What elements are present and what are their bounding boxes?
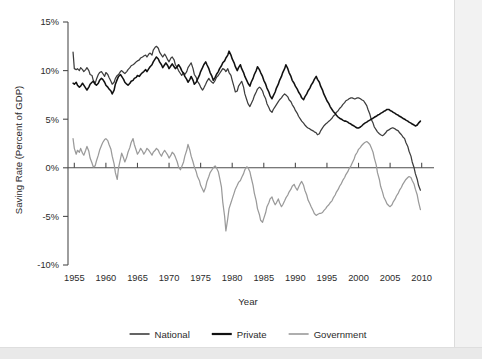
x-tick-label: 2000	[348, 273, 369, 283]
x-tick-label: 1975	[190, 273, 211, 283]
x-tick-label: 1985	[253, 273, 274, 283]
series-line-government	[73, 139, 420, 231]
x-tick-label: 1990	[285, 273, 306, 283]
plot-series	[73, 46, 420, 231]
x-tick-label: 2010	[411, 273, 432, 283]
y-tick-label: 5%	[46, 115, 59, 125]
x-tick-label: 1970	[159, 273, 180, 283]
x-tick-label: 1960	[96, 273, 117, 283]
legend-item-government[interactable]: Government	[289, 329, 367, 340]
legend-label: National	[155, 329, 190, 340]
page-edge-right	[454, 0, 482, 348]
x-tick-label: 1980	[222, 273, 243, 283]
figure-sheet: -10%-5%0%5%10%15%19551960196519701975198…	[0, 0, 455, 348]
scanned-page: -10%-5%0%5%10%15%19551960196519701975198…	[0, 0, 482, 359]
legend-label: Government	[314, 329, 367, 340]
series-line-private	[73, 51, 420, 128]
saving-rate-line-chart: -10%-5%0%5%10%15%19551960196519701975198…	[0, 0, 455, 348]
x-tick-label: 1995	[317, 273, 338, 283]
y-tick-label: 10%	[40, 66, 59, 76]
x-tick-label: 1965	[127, 273, 148, 283]
legend-item-national[interactable]: National	[130, 329, 190, 340]
plot-axes	[68, 22, 434, 265]
series-line-national	[73, 46, 420, 190]
x-axis-title: Year	[238, 296, 258, 307]
y-tick-label: 0%	[46, 163, 59, 173]
y-axis-title: Saving Rate (Percent of GDP)	[13, 86, 24, 215]
legend-label: Private	[237, 329, 267, 340]
y-tick-label: -10%	[37, 260, 59, 270]
y-tick-label: -5%	[42, 212, 59, 222]
x-tick-label: 1955	[64, 273, 85, 283]
chart-legend: NationalPrivateGovernment	[130, 329, 367, 340]
page-edge-bottom	[0, 347, 482, 359]
y-tick-label: 15%	[40, 17, 59, 27]
x-tick-label: 2005	[380, 273, 401, 283]
legend-item-private[interactable]: Private	[212, 329, 267, 340]
